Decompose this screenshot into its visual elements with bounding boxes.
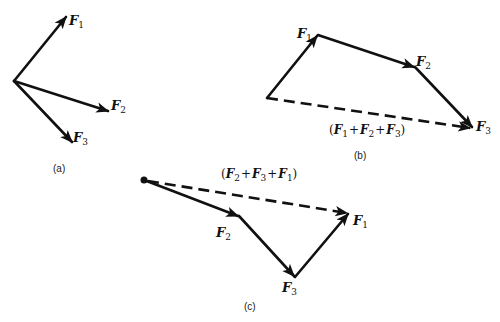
vector-f3-arrow bbox=[415, 67, 472, 127]
vector-f1-arrow bbox=[267, 36, 317, 98]
vector-f2-arrow bbox=[318, 35, 414, 67]
panel-a: F1 F2 F3 (a) bbox=[14, 13, 126, 174]
vector-f1-arrow bbox=[295, 214, 348, 277]
vector-addition-diagram: F1 F2 F3 (a) F1 F2 F3 (F1+F2+F3) (b) F2 … bbox=[0, 0, 500, 322]
sum-label-f2-f3-f1: (F2+F3+F1) bbox=[221, 167, 297, 183]
label-f3: F3 bbox=[281, 280, 297, 297]
caption-a: (a) bbox=[53, 163, 65, 174]
label-f2: F2 bbox=[110, 98, 126, 115]
resultant-dashed-arrow bbox=[148, 181, 347, 213]
label-f1: F1 bbox=[68, 13, 84, 30]
panel-b: F1 F2 F3 (F1+F2+F3) (b) bbox=[267, 26, 491, 161]
label-f3: F3 bbox=[72, 130, 88, 147]
vector-f1-arrow bbox=[14, 17, 66, 81]
label-f3: F3 bbox=[475, 119, 491, 136]
label-f1: F1 bbox=[296, 26, 312, 43]
label-f1: F1 bbox=[352, 213, 368, 230]
sum-label-f1-f2-f3: (F1+F2+F3) bbox=[329, 123, 405, 139]
label-f2: F2 bbox=[415, 54, 431, 71]
label-f2: F2 bbox=[215, 225, 231, 242]
panel-c: F2 F3 F1 (F2+F3+F1) (c) bbox=[141, 167, 368, 312]
vector-f2-arrow bbox=[144, 180, 238, 216]
caption-b: (b) bbox=[354, 150, 366, 161]
caption-c: (c) bbox=[244, 301, 256, 312]
vector-f3-arrow bbox=[239, 216, 294, 276]
